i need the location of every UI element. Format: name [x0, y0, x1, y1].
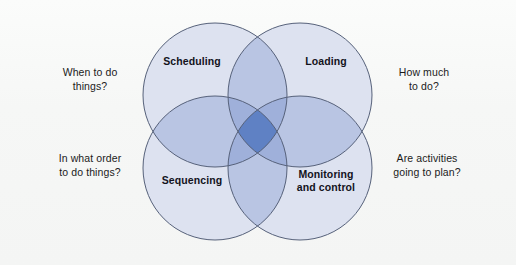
question-label-when-to-do-things: When to do things?	[38, 66, 142, 93]
question-label-how-much-to-do: How much to do?	[372, 66, 476, 93]
question-label-in-what-order: In what order to do things?	[34, 152, 146, 179]
circle-label-loading: Loading	[278, 55, 374, 68]
circle-label-scheduling: Scheduling	[144, 55, 240, 68]
circle-label-monitoring: Monitoring and control	[272, 168, 380, 194]
venn-diagram-figure: Scheduling Loading Sequencing Monitoring…	[0, 0, 516, 265]
question-label-are-activities-going-to-plan: Are activities going to plan?	[368, 152, 486, 179]
venn-svg	[0, 0, 516, 265]
circle-label-sequencing: Sequencing	[144, 174, 240, 187]
